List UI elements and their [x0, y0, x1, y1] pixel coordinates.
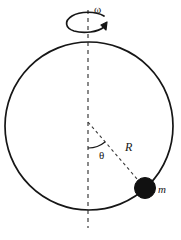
mass-label: m — [158, 184, 166, 195]
radius-line — [88, 122, 144, 187]
radius-label: R — [125, 141, 132, 153]
diagram-canvas — [0, 0, 181, 240]
theta-label: θ — [99, 150, 104, 161]
angle-arc — [88, 142, 105, 148]
rotation-arrow-arc — [67, 12, 104, 32]
bead-mass — [135, 178, 156, 199]
omega-label: ω — [94, 4, 101, 15]
physics-diagram: ω θ R m — [0, 0, 181, 240]
